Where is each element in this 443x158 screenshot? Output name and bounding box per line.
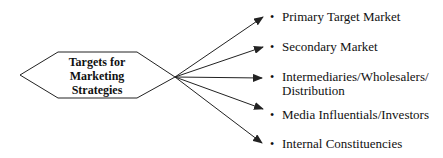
target-item-secondary: • Secondary Market — [270, 40, 378, 54]
bullet-icon: • — [270, 70, 282, 98]
target-item-primary: • Primary Target Market — [270, 10, 400, 24]
bullet-icon: • — [270, 137, 282, 151]
target-label: Intermediaries/Wholesalers/ Distribution — [282, 70, 430, 98]
target-item-media: • Media Influentials/Investors — [270, 108, 429, 122]
arrow-internal — [175, 77, 262, 143]
arrow-intermediaries — [175, 77, 262, 78]
target-label: Primary Target Market — [282, 10, 400, 24]
arrow-secondary — [175, 47, 263, 77]
arrow-media — [175, 77, 263, 109]
center-line-3: Strategies — [58, 83, 136, 97]
target-label: Media Influentials/Investors — [282, 108, 429, 122]
target-item-intermediaries: • Intermediaries/Wholesalers/ Distributi… — [270, 70, 430, 98]
target-label: Internal Constituencies — [282, 137, 402, 151]
bullet-icon: • — [270, 40, 282, 54]
diagram: Targets for Marketing Strategies • Prima… — [0, 0, 443, 158]
center-line-1: Targets for — [58, 55, 136, 69]
bullet-icon: • — [270, 108, 282, 122]
bullet-icon: • — [270, 10, 282, 24]
target-item-internal: • Internal Constituencies — [270, 137, 402, 151]
center-label: Targets for Marketing Strategies — [58, 55, 136, 97]
center-line-2: Marketing — [58, 69, 136, 83]
arrow-primary — [175, 17, 263, 77]
target-label: Secondary Market — [282, 40, 378, 54]
